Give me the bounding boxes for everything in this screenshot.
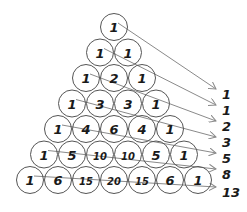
pascal-value: 3 [123,97,132,112]
pascal-cell: 1 [45,116,72,143]
pascal-cell: 1 [17,167,44,194]
pascal-value: 1 [123,46,132,61]
pascal-value: 10 [93,151,107,162]
fibonacci-sum: 5 [222,151,231,166]
pascal-value: 5 [67,148,76,163]
pascal-value: 1 [53,122,62,137]
pascal-cell: 5 [143,141,170,168]
pascal-cell: 1 [87,39,114,66]
fibonacci-sums: 11235813 [222,87,240,200]
pascal-cell: 6 [157,167,184,194]
pascal-cell: 1 [129,65,156,92]
pascal-cell: 10 [115,141,142,168]
fibonacci-sum: 1 [222,103,231,118]
pascal-cell: 1 [73,65,100,92]
pascal-cell: 1 [143,90,170,117]
pascal-cell: 1 [171,141,198,168]
pascal-cell: 2 [101,65,128,92]
pascal-cell: 4 [73,116,100,143]
pascal-value: 1 [25,173,34,188]
pascal-value: 4 [136,122,146,137]
pascal-cell: 1 [115,39,142,66]
pascal-cell: 15 [129,167,156,194]
pascal-cell: 4 [129,116,156,143]
fibonacci-sum: 3 [222,135,231,150]
pascal-value: 10 [121,151,135,162]
pascal-cell: 6 [45,167,72,194]
pascal-cell: 1 [185,167,212,194]
fibonacci-sum: 1 [222,87,231,102]
pascal-value: 20 [107,176,121,187]
pascal-value: 1 [165,122,174,137]
pascal-value: 6 [165,173,174,188]
pascal-value: 1 [109,20,118,35]
pascal-value: 3 [95,97,104,112]
pascal-value: 15 [79,176,93,187]
pascal-value: 4 [80,122,90,137]
pascal-value: 1 [179,148,188,163]
pascal-value: 5 [151,148,160,163]
diagonal-arrow [118,23,216,89]
pascal-value: 1 [95,46,104,61]
fibonacci-sum: 2 [222,119,231,134]
fibonacci-sum: 13 [222,185,240,200]
pascal-cell: 1 [31,141,58,168]
pascal-value: 1 [137,71,146,86]
pascal-cell: 6 [101,116,128,143]
pascal-value: 15 [135,176,149,187]
pascal-cell: 1 [59,90,86,117]
pascal-cell: 10 [87,141,114,168]
pascal-value: 1 [193,173,202,188]
pascal-value: 1 [39,148,48,163]
pascal-value: 1 [81,71,90,86]
pascal-triangle: 111121133114641151010511615201561 [17,14,212,194]
pascal-cell: 1 [157,116,184,143]
pascal-value: 1 [67,97,76,112]
pascal-value: 6 [53,173,62,188]
pascal-value: 2 [109,71,118,86]
pascal-value: 1 [151,97,160,112]
pascal-value: 6 [109,122,118,137]
fibonacci-sum: 8 [222,167,231,182]
pascal-fibonacci-diagram: 111121133114641151010511615201561 112358… [0,0,247,212]
